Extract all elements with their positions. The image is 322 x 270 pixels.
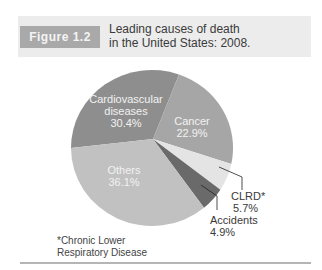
- bottom-divider: [20, 262, 311, 264]
- label-cardiovascular-line2: diseases: [104, 105, 148, 117]
- footnote: *Chronic Lower Respiratory Disease: [57, 235, 147, 259]
- label-others-name: Others: [107, 164, 141, 176]
- label-accidents-name: Accidents: [210, 214, 258, 226]
- label-cardiovascular-value: 30.4%: [110, 117, 141, 129]
- label-clrd-name: CLRD*: [231, 190, 266, 202]
- label-cancer-value: 22.9%: [176, 127, 207, 139]
- footnote-line1: *Chronic Lower: [57, 235, 147, 247]
- label-clrd-value: 5.7%: [233, 202, 258, 214]
- footnote-line2: Respiratory Disease: [57, 247, 147, 259]
- label-cancer-name: Cancer: [174, 115, 210, 127]
- pie-chart: Cardiovascular diseases 30.4% Cancer 22.…: [0, 0, 322, 270]
- label-accidents-value: 4.9%: [210, 226, 235, 238]
- label-cardiovascular-line1: Cardiovascular: [89, 93, 163, 105]
- label-others-value: 36.1%: [108, 176, 139, 188]
